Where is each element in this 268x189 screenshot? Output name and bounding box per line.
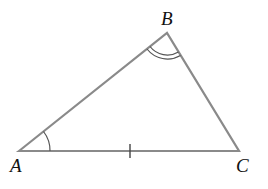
vertex-label-b: B: [161, 8, 173, 29]
angle-a-arc: [44, 132, 51, 152]
angle-b-arc-inner: [150, 47, 179, 56]
triangle-abc: [19, 33, 239, 151]
triangle-diagram: A B C: [0, 0, 268, 189]
vertex-label-c: C: [236, 155, 249, 176]
triangle-figure: A B C: [0, 0, 268, 189]
vertex-label-a: A: [8, 155, 22, 176]
